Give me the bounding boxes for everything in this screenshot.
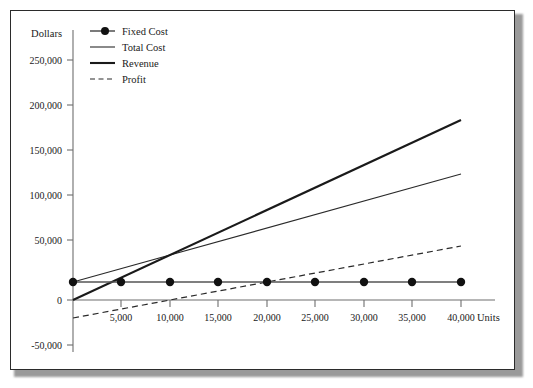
x-tick-label-15000: 15,000: [204, 312, 232, 323]
chart-legend: Fixed Cost Total Cost Revenue Profit: [90, 26, 168, 85]
legend-label-total-cost: Total Cost: [122, 42, 165, 53]
x-tick-labels: 5,000 10,000 15,000 20,000 25,000 30,000…: [110, 312, 500, 323]
break-even-chart: 250,000 200,000 150,000 100,000 50,000 0…: [0, 0, 533, 388]
legend-label-profit: Profit: [122, 74, 146, 85]
marker-fixed-cost-40000: [457, 278, 465, 286]
series-line-total-cost: [73, 174, 461, 282]
legend-entry-fixed-cost: Fixed Cost: [90, 26, 168, 37]
legend-label-fixed-cost: Fixed Cost: [122, 26, 168, 37]
y-tick-labels: 250,000 200,000 150,000 100,000 50,000 0…: [30, 55, 63, 351]
marker-fixed-cost-15000: [214, 278, 222, 286]
y-tick-marks: [67, 60, 73, 345]
marker-fixed-cost-5000: [117, 278, 125, 286]
marker-fixed-cost-0: [69, 278, 77, 286]
x-axis-title: Units: [477, 312, 500, 323]
y-tick-label-0: 0: [57, 295, 62, 306]
series-line-revenue: [73, 120, 461, 300]
legend-entry-profit: Profit: [90, 74, 146, 85]
marker-fixed-cost-25000: [311, 278, 319, 286]
marker-fixed-cost-10000: [166, 278, 174, 286]
x-tick-label-25000: 25,000: [301, 312, 329, 323]
x-tick-label-40000: 40,000: [447, 312, 475, 323]
y-tick-label-200000: 200,000: [30, 100, 63, 111]
x-tick-label-5000: 5,000: [110, 312, 133, 323]
x-tick-label-30000: 30,000: [350, 312, 378, 323]
legend-entry-total-cost: Total Cost: [90, 42, 165, 53]
y-tick-label-neg50000: -50,000: [31, 340, 62, 351]
marker-fixed-cost-20000: [263, 278, 271, 286]
y-tick-label-150000: 150,000: [30, 145, 63, 156]
legend-entry-revenue: Revenue: [90, 58, 159, 69]
x-tick-marks: [121, 300, 461, 307]
legend-label-revenue: Revenue: [122, 58, 159, 69]
x-tick-label-20000: 20,000: [253, 312, 281, 323]
y-tick-label-50000: 50,000: [35, 235, 63, 246]
y-tick-label-100000: 100,000: [30, 190, 63, 201]
figure-root: 250,000 200,000 150,000 100,000 50,000 0…: [0, 0, 533, 388]
x-tick-label-10000: 10,000: [156, 312, 184, 323]
y-tick-label-250000: 250,000: [30, 55, 63, 66]
marker-fixed-cost-35000: [408, 278, 416, 286]
legend-marker-fixed-cost-icon: [101, 27, 109, 35]
y-axis-title: Dollars: [31, 28, 62, 39]
marker-fixed-cost-30000: [360, 278, 368, 286]
x-tick-label-35000: 35,000: [398, 312, 426, 323]
